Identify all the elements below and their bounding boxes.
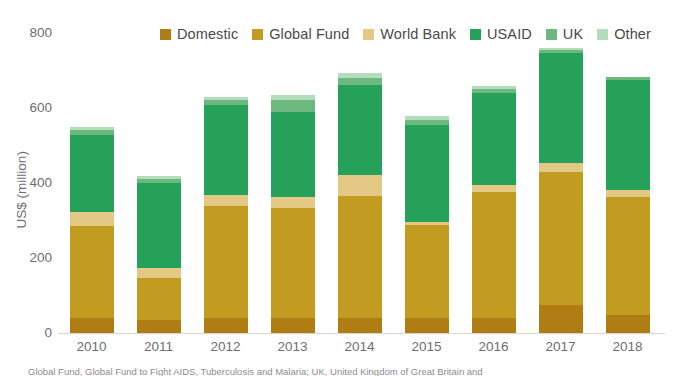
bar-segment-world-bank[interactable]	[204, 195, 248, 205]
plot-area	[58, 33, 661, 333]
bar-group-2010	[58, 33, 125, 333]
x-axis-tick-label: 2012	[192, 340, 259, 354]
bar-segment-world-bank[interactable]	[472, 185, 516, 192]
bar-stack[interactable]	[70, 127, 114, 333]
bar-segment-domestic[interactable]	[271, 318, 315, 333]
bar-segment-domestic[interactable]	[204, 318, 248, 333]
bar-stack[interactable]	[472, 86, 516, 333]
bar-segment-global-fund[interactable]	[539, 172, 583, 305]
bar-group-2017	[527, 33, 594, 333]
bar-segment-usaid[interactable]	[271, 112, 315, 197]
bar-segment-world-bank[interactable]	[539, 163, 583, 172]
bar-segment-usaid[interactable]	[204, 105, 248, 195]
bar-segment-world-bank[interactable]	[70, 212, 114, 226]
bar-segment-usaid[interactable]	[472, 93, 516, 185]
y-axis: US$ (million) 0200400600800	[0, 33, 52, 333]
bar-segment-usaid[interactable]	[338, 85, 382, 175]
y-axis-tick-label: 0	[8, 326, 52, 340]
bar-group-2014	[326, 33, 393, 333]
y-axis-tick-label: 800	[8, 26, 52, 40]
bar-segment-global-fund[interactable]	[204, 206, 248, 319]
x-axis-line	[58, 333, 665, 334]
y-axis-tick-label: 600	[8, 101, 52, 115]
bar-stack[interactable]	[137, 176, 181, 333]
bar-segment-global-fund[interactable]	[338, 196, 382, 318]
bar-segment-domestic[interactable]	[606, 315, 650, 333]
x-axis-tick-label: 2016	[460, 340, 527, 354]
bar-segment-domestic[interactable]	[137, 320, 181, 333]
bar-segment-world-bank[interactable]	[606, 190, 650, 197]
bar-segment-global-fund[interactable]	[137, 278, 181, 320]
bar-segment-uk[interactable]	[271, 100, 315, 112]
bar-group-2016	[460, 33, 527, 333]
bar-stack[interactable]	[405, 116, 449, 333]
bar-segment-domestic[interactable]	[338, 318, 382, 333]
bar-stack[interactable]	[204, 97, 248, 333]
bar-segment-global-fund[interactable]	[271, 208, 315, 318]
bar-segment-domestic[interactable]	[70, 318, 114, 333]
bar-segment-usaid[interactable]	[405, 125, 449, 223]
stacked-bar-chart: DomesticGlobal FundWorld BankUSAIDUKOthe…	[0, 0, 673, 376]
bar-group-2012	[192, 33, 259, 333]
bar-stack[interactable]	[338, 73, 382, 333]
bar-group-2011	[125, 33, 192, 333]
y-axis-title: US$ (million)	[15, 110, 29, 270]
bar-group-2013	[259, 33, 326, 333]
x-axis: 201020112012201320142015201620172018	[58, 340, 661, 354]
bar-segment-usaid[interactable]	[606, 80, 650, 190]
bar-segment-world-bank[interactable]	[271, 197, 315, 208]
bar-segment-usaid[interactable]	[137, 183, 181, 268]
bar-segment-usaid[interactable]	[70, 135, 114, 212]
bar-segment-usaid[interactable]	[539, 53, 583, 163]
bar-segment-domestic[interactable]	[472, 318, 516, 333]
bar-stack[interactable]	[271, 95, 315, 334]
bar-segment-world-bank[interactable]	[338, 175, 382, 196]
y-axis-tick-label: 200	[8, 251, 52, 265]
bar-stack[interactable]	[606, 77, 650, 333]
chart-footnote: Global Fund, Global Fund to Fight AIDS, …	[28, 366, 668, 376]
bar-group-2018	[594, 33, 661, 333]
bar-segment-uk[interactable]	[338, 78, 382, 86]
bar-segment-global-fund[interactable]	[70, 226, 114, 318]
x-axis-tick-label: 2018	[594, 340, 661, 354]
x-axis-tick-label: 2015	[393, 340, 460, 354]
x-axis-tick-label: 2010	[58, 340, 125, 354]
bar-segment-global-fund[interactable]	[472, 192, 516, 318]
bar-series-container	[58, 33, 661, 333]
y-axis-tick-label: 400	[8, 176, 52, 190]
bar-segment-world-bank[interactable]	[137, 268, 181, 278]
x-axis-tick-label: 2011	[125, 340, 192, 354]
bar-stack[interactable]	[539, 48, 583, 333]
x-axis-tick-label: 2017	[527, 340, 594, 354]
bar-group-2015	[393, 33, 460, 333]
x-axis-tick-label: 2013	[259, 340, 326, 354]
bar-segment-domestic[interactable]	[405, 318, 449, 333]
bar-segment-global-fund[interactable]	[606, 197, 650, 315]
x-axis-tick-label: 2014	[326, 340, 393, 354]
bar-segment-global-fund[interactable]	[405, 225, 449, 318]
bar-segment-domestic[interactable]	[539, 305, 583, 333]
